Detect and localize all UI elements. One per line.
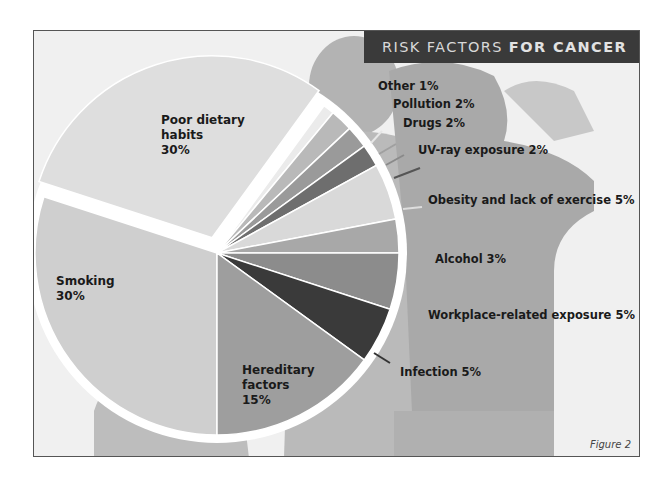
label-workplace: Workplace-related exposure 5% <box>428 308 635 322</box>
label-poor-diet-line1: Poor dietary <box>161 113 245 128</box>
label-uv: UV-ray exposure 2% <box>418 143 548 157</box>
chart-title-bar: RISK FACTORS FOR CANCER <box>364 31 639 63</box>
pie-chart <box>34 31 640 457</box>
label-poor-diet: Poor dietary habits 30% <box>161 113 245 158</box>
label-obesity: Obesity and lack of exercise 5% <box>428 193 634 207</box>
figure-frame: RISK FACTORS FOR CANCER Poor dietary hab… <box>33 30 640 457</box>
title-part-1: RISK FACTORS <box>382 39 503 55</box>
label-infection: Infection 5% <box>400 365 481 379</box>
label-alcohol: Alcohol 3% <box>435 252 506 266</box>
label-drugs: Drugs 2% <box>403 116 465 130</box>
label-hereditary-line1: Hereditary <box>242 363 315 378</box>
label-other: Other 1% <box>378 79 438 93</box>
figure-caption: Figure 2 <box>590 439 631 450</box>
label-pollution: Pollution 2% <box>393 97 474 111</box>
label-smoking-line1: Smoking <box>56 274 115 289</box>
title-part-2: FOR CANCER <box>509 39 627 55</box>
label-poor-diet-line2: habits <box>161 128 245 143</box>
label-hereditary-value: 15% <box>242 393 315 408</box>
label-smoking: Smoking 30% <box>56 274 115 304</box>
label-hereditary: Hereditary factors 15% <box>242 363 315 408</box>
label-poor-diet-value: 30% <box>161 143 245 158</box>
label-smoking-value: 30% <box>56 289 115 304</box>
label-hereditary-line2: factors <box>242 378 315 393</box>
